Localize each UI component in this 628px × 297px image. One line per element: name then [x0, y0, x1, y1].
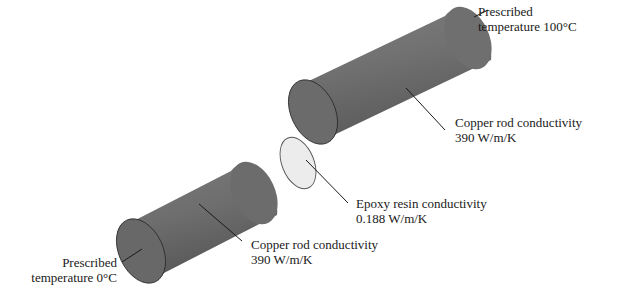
- label-top-temperature: Prescribed temperature 100°C: [478, 4, 577, 34]
- label-bottom-temperature: Prescribed temperature 0°C: [0, 255, 117, 285]
- label-epoxy-conductivity: Epoxy resin conductivity 0.188 W/m/K: [356, 196, 487, 226]
- leader-right-rod: [406, 88, 445, 130]
- diagram-canvas: Prescribed temperature 100°C Copper rod …: [0, 0, 628, 297]
- label-right-rod-conductivity: Copper rod conductivity 390 W/m/K: [455, 115, 582, 145]
- copper-rod-left: [107, 154, 287, 291]
- label-left-rod-conductivity: Copper rod conductivity 390 W/m/K: [251, 237, 378, 267]
